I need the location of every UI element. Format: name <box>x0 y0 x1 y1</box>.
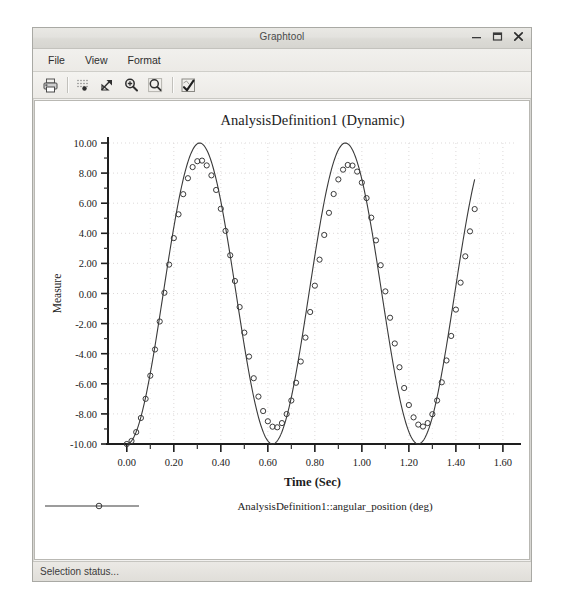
data-series[interactable] <box>124 143 477 447</box>
check-curve-icon[interactable] <box>177 74 200 97</box>
y-axis-label: Measure <box>51 274 63 314</box>
legend: AnalysisDefinition1::angular_position (d… <box>45 500 433 513</box>
svg-text:-4.00: -4.00 <box>75 349 97 360</box>
svg-text:2.00: 2.00 <box>79 258 97 269</box>
svg-text:1.00: 1.00 <box>353 457 371 468</box>
graph-canvas[interactable]: AnalysisDefinition1 (Dynamic)-10.00-8.00… <box>35 101 529 560</box>
window-titlebar[interactable]: Graphtool <box>33 28 531 49</box>
gridlines <box>109 143 517 443</box>
menubar: File View Format <box>33 49 531 72</box>
legend-label: AnalysisDefinition1::angular_position (d… <box>237 500 433 513</box>
graphtool-window: Graphtool File View Format <box>32 27 532 582</box>
menu-item-view[interactable]: View <box>76 52 117 68</box>
toolbar-separator-2 <box>172 77 173 93</box>
line-plot-icon[interactable] <box>96 74 119 97</box>
svg-text:-6.00: -6.00 <box>75 379 97 390</box>
svg-text:0.40: 0.40 <box>212 457 230 468</box>
svg-text:8.00: 8.00 <box>79 168 97 179</box>
svg-text:0.00: 0.00 <box>118 457 136 468</box>
toolbar-separator-1 <box>67 77 68 93</box>
window-caption-buttons <box>470 30 525 43</box>
maximize-icon[interactable] <box>491 30 504 43</box>
svg-text:0.00: 0.00 <box>79 289 97 300</box>
chart-panel[interactable]: AnalysisDefinition1 (Dynamic)-10.00-8.00… <box>34 100 530 560</box>
svg-text:10.00: 10.00 <box>73 138 97 149</box>
zoom-in-icon[interactable] <box>120 74 143 97</box>
svg-text:4.00: 4.00 <box>79 228 97 239</box>
svg-text:0.80: 0.80 <box>306 457 324 468</box>
svg-text:-2.00: -2.00 <box>75 319 97 330</box>
svg-text:1.60: 1.60 <box>494 457 512 468</box>
zoom-out-icon[interactable] <box>144 74 167 97</box>
screenshot-root: Graphtool File View Format <box>0 0 561 602</box>
svg-text:1.40: 1.40 <box>447 457 465 468</box>
window-title: Graphtool <box>33 31 531 42</box>
svg-text:-10.00: -10.00 <box>70 439 97 450</box>
x-axis-ticks: 0.000.200.400.600.801.001.201.401.60 <box>118 444 512 468</box>
menu-item-file[interactable]: File <box>39 52 74 68</box>
close-icon[interactable] <box>512 30 525 43</box>
status-text: Selection status... <box>40 566 119 577</box>
svg-text:6.00: 6.00 <box>79 198 97 209</box>
chart-title: AnalysisDefinition1 (Dynamic) <box>220 112 404 129</box>
svg-text:0.60: 0.60 <box>259 457 277 468</box>
statusbar: Selection status... <box>33 561 531 581</box>
svg-text:1.20: 1.20 <box>400 457 418 468</box>
axes <box>106 137 521 444</box>
grid-points-icon[interactable] <box>72 74 95 97</box>
minimize-icon[interactable] <box>470 30 483 43</box>
menu-item-format[interactable]: Format <box>119 52 170 68</box>
svg-text:-8.00: -8.00 <box>75 409 97 420</box>
svg-text:0.20: 0.20 <box>165 457 183 468</box>
y-axis-ticks: -10.00-8.00-6.00-4.00-2.000.002.004.006.… <box>70 138 108 450</box>
toolbar <box>33 72 531 99</box>
x-axis-label: Time (Sec) <box>284 475 341 489</box>
print-icon[interactable] <box>39 74 62 97</box>
